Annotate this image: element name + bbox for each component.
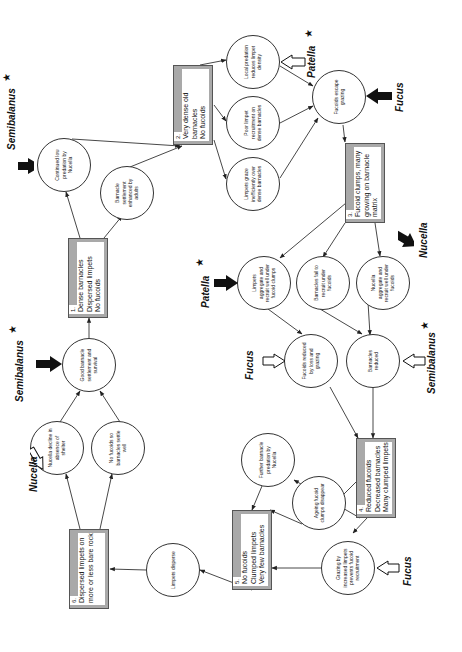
process-text: Limpets disperse — [170, 550, 176, 590]
box-line: Reduced fucoids — [365, 443, 374, 512]
process-circle: Fucoids escape grazing — [312, 70, 366, 124]
process-text: Limpets aggregate and recruit well under… — [251, 263, 277, 303]
star-icon: ★ — [304, 29, 314, 38]
box-line: No fucoids — [199, 70, 208, 139]
box-line: Decreased barnacles — [374, 443, 383, 512]
species-label-fucus: Fucus — [402, 557, 413, 586]
stage-number: 3. — [346, 210, 354, 219]
box-line: more or less bare rock — [87, 534, 96, 603]
species-label-nucella: Nucella — [418, 222, 429, 258]
star-icon: ★ — [2, 73, 12, 82]
hollow-arrow-icon — [376, 560, 400, 576]
process-text: Poor limpet recruitment on dense barnacl… — [243, 103, 262, 143]
process-circle: Grazing by increased limpets prevents fu… — [321, 541, 375, 595]
process-text: Barnacles reduced — [367, 341, 380, 381]
process-text: Continued low predation by Nucella — [54, 145, 73, 185]
star-icon: ★ — [195, 258, 205, 267]
box-line: Very few barnacles — [258, 515, 267, 584]
species-label-fucus: Fucus — [244, 351, 255, 380]
stage-box-5: 5. No fucoids Clumped limpets Very few b… — [232, 510, 272, 590]
process-text: Fucoids reduced by loss and grazing — [301, 341, 320, 381]
stage-box-3: 3. Fucoid clumps, many growing on barnac… — [345, 143, 385, 223]
process-circle: No fucoids so barnacles settle well — [91, 421, 145, 475]
box-line: Clumped limpets — [250, 515, 259, 584]
filled-arrow-icon — [36, 356, 62, 372]
process-circle: Poor limpet recruitment on dense barnacl… — [226, 96, 280, 150]
process-text: Barnacle settlement enhanced by adults — [114, 173, 140, 213]
hollow-arrow-icon — [280, 54, 306, 70]
species-label-semibalanus: Semibalanus — [14, 340, 25, 402]
hollow-arrow-icon — [402, 353, 426, 369]
stage-number: 5. — [233, 577, 241, 586]
box-line: Dispersed limpets — [86, 243, 95, 312]
process-circle: Continued low predation by Nucella — [37, 138, 91, 192]
process-text: No fucoids so barnacles settle well — [108, 428, 127, 468]
process-circle: Fucoids reduced by loss and grazing — [284, 334, 338, 388]
process-text: Fucoids escape grazing — [333, 77, 346, 117]
stage-box-6: 6. Dispersed limpets on more or less bar… — [69, 529, 109, 609]
star-icon: ★ — [420, 321, 430, 330]
box-line: Dense barnacles — [77, 243, 86, 312]
species-label-semibalanus: Semibalanus — [426, 332, 437, 394]
process-circle: Barnacles fail to recruit under fucoids — [296, 256, 350, 310]
species-label-patella: Patella — [200, 276, 211, 308]
star-icon: ★ — [8, 325, 18, 334]
filled-arrow-icon — [18, 148, 34, 182]
process-circle: Limpets aggregate and recruit well under… — [237, 256, 291, 310]
filled-arrow-icon — [366, 88, 392, 104]
stage-number: 4. — [357, 505, 365, 514]
box-line: growing on barnacle — [363, 148, 372, 217]
diagram-stage: 1. Dense barnacles Dispersed limpets No … — [0, 0, 462, 652]
process-circle: Barnacle settlement enhanced by adults — [100, 166, 154, 220]
stage-number: 2. — [174, 132, 182, 141]
process-text: Grazing by increased limpets prevents fu… — [335, 548, 361, 588]
process-text: Good barnacle settlement and survival — [79, 345, 98, 385]
species-label-semibalanus: Semibalanus — [6, 88, 17, 150]
box-line: barnacles — [191, 70, 200, 139]
hollow-arrow-icon — [262, 353, 286, 369]
box-line: Very dense old — [182, 70, 191, 139]
stage-number: 1. — [69, 305, 77, 314]
filled-arrow-icon — [398, 228, 414, 252]
box-line: Many clumped limpets — [382, 443, 391, 512]
process-circle: Local predation reduces limpet density — [226, 35, 280, 89]
process-circle: Good barnacle settlement and survival — [62, 338, 116, 392]
stage-box-2: 2. Very dense old barnacles No fucoids — [173, 65, 213, 145]
process-text: Nucella decline in absence of shelter — [47, 428, 66, 468]
species-label-patella: Patella — [306, 46, 317, 78]
stage-box-1: 1. Dense barnacles Dispersed limpets No … — [68, 238, 108, 318]
box-line: No fucoids — [94, 243, 103, 312]
process-text: Ageing fucoid clumps disappear — [313, 483, 326, 523]
process-text: Further barnacle predation by Nucella — [258, 440, 277, 480]
process-circle: Further barnacle predation by Nucella — [241, 433, 295, 487]
process-circle: Limpets graze inefficiently over dense b… — [226, 157, 280, 211]
process-circle: Nucella aggregate and recruit well under… — [356, 256, 410, 310]
box-line: Dispersed limpets on — [78, 534, 87, 603]
box-line: Fucoid clumps, many — [354, 148, 363, 217]
process-circle: Limpets disperse — [146, 543, 200, 597]
process-text: Barnacles fail to recruit under fucoids — [313, 263, 332, 303]
box-line: No fucoids — [241, 515, 250, 584]
box-line: matrix — [371, 148, 380, 217]
stage-number: 6. — [70, 596, 78, 605]
succession-cycle-diagram: 1. Dense barnacles Dispersed limpets No … — [0, 0, 462, 652]
species-label-fucus: Fucus — [394, 83, 405, 112]
stage-box-4: 4. Reduced fucoids Decreased barnacles M… — [356, 438, 396, 518]
process-text: Nucella aggregate and recruit well under… — [370, 263, 396, 303]
process-circle: Barnacles reduced — [346, 334, 400, 388]
process-text: Local predation reduces limpet density — [243, 42, 262, 82]
species-label-nucella: Nucella — [28, 456, 39, 492]
filled-arrow-icon — [214, 275, 238, 291]
process-circle: Ageing fucoid clumps disappear — [292, 476, 346, 530]
process-text: Limpets graze inefficiently over dense b… — [243, 164, 262, 204]
